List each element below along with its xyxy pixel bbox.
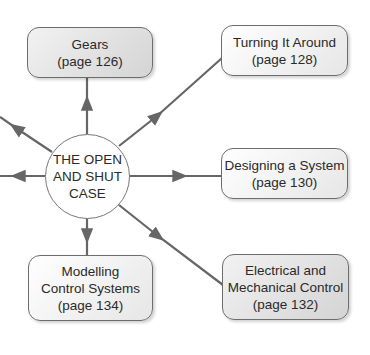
node-page: (page 130) bbox=[252, 174, 317, 191]
node-page: (page 128) bbox=[252, 51, 317, 68]
node-title: Designing a System bbox=[224, 157, 344, 174]
node-page: (page 126) bbox=[57, 53, 122, 70]
center-line-2: AND SHUT bbox=[53, 168, 122, 185]
node-title: Gears bbox=[72, 36, 109, 53]
central-topic-circle: THE OPEN AND SHUT CASE bbox=[45, 134, 130, 219]
node-title-1: Electrical and bbox=[245, 262, 326, 279]
center-line-1: THE OPEN bbox=[53, 151, 122, 168]
center-line-3: CASE bbox=[69, 185, 106, 202]
node-turning-it-around: Turning It Around (page 128) bbox=[221, 25, 348, 76]
node-modelling-control-systems: Modelling Control Systems (page 134) bbox=[28, 255, 153, 321]
node-title-2: Control Systems bbox=[41, 280, 140, 297]
node-gears: Gears (page 126) bbox=[27, 27, 153, 78]
node-page: (page 134) bbox=[58, 297, 123, 314]
node-page: (page 132) bbox=[253, 296, 318, 313]
arrow-upper-left-offscreen bbox=[0, 117, 52, 152]
node-title-2: Mechanical Control bbox=[228, 279, 344, 296]
node-title-1: Modelling bbox=[62, 263, 120, 280]
node-title: Turning It Around bbox=[233, 34, 336, 51]
node-designing-a-system: Designing a System (page 130) bbox=[221, 148, 348, 199]
node-electrical-mechanical-control: Electrical and Mechanical Control (page … bbox=[222, 254, 349, 320]
